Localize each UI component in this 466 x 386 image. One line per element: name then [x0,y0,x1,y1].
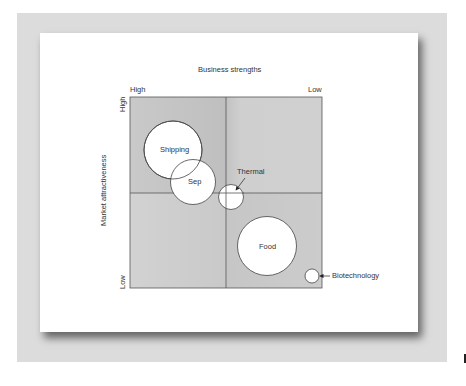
y-axis-high-label: High [119,97,127,112]
bubble-matrix-diagram [0,0,466,386]
quadrant-bottom-left [130,193,226,288]
label-sep: Sep [188,178,201,186]
y-axis-title: Market attractiveness [100,155,108,226]
label-food: Food [259,243,276,251]
quadrant-top-right [226,97,322,193]
x-axis-title: Business strengths [198,66,261,74]
y-axis-low-label: Low [119,275,127,289]
x-axis-low-label: Low [308,86,322,94]
bubble-biotechnology [305,269,319,283]
label-shipping: Shipping [160,146,189,154]
bubble-thermal [219,185,244,210]
label-thermal: Thermal [237,168,265,176]
x-axis-high-label: High [130,86,145,94]
label-biotechnology: Biotechnology [332,272,379,280]
